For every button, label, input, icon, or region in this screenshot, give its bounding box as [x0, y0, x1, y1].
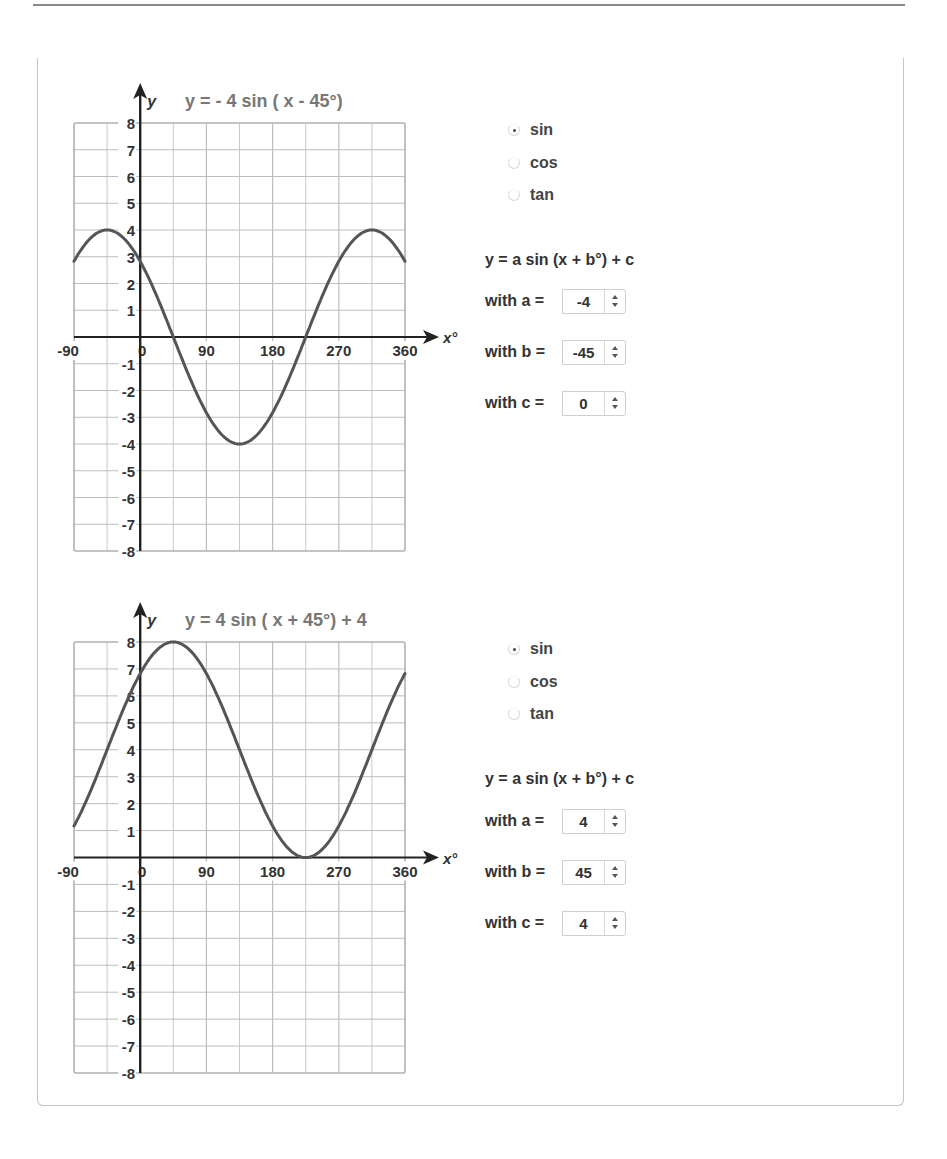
y-tick-label: 1	[127, 823, 135, 840]
sine-graph-1: 87654321-1-2-3-4-5-6-7-8-90090180270360x…	[0, 0, 947, 600]
x-tick-label: 90	[198, 342, 215, 359]
param-c-row: with c =	[485, 390, 626, 416]
x-tick-label: -90	[57, 342, 79, 359]
spin-down-icon[interactable]	[612, 354, 618, 358]
radio-label-cos: cos	[530, 154, 558, 172]
y-tick-label: -5	[122, 463, 135, 480]
param-b-label: with b =	[485, 343, 562, 361]
spinner-buttons	[605, 392, 625, 415]
param-c-input[interactable]	[563, 392, 605, 415]
spin-up-icon[interactable]	[612, 295, 618, 299]
y-tick-label: 2	[127, 276, 135, 293]
spinner-buttons	[605, 290, 625, 313]
param-c-input[interactable]	[563, 912, 605, 935]
param-a-spinner[interactable]	[562, 809, 626, 834]
param-b-spinner[interactable]	[562, 340, 626, 365]
y-axis-label: y	[146, 93, 157, 110]
radio-button-icon[interactable]	[508, 124, 520, 136]
spin-down-icon[interactable]	[612, 925, 618, 929]
spin-up-icon[interactable]	[612, 346, 618, 350]
y-tick-label: 5	[127, 195, 135, 212]
radio-cos[interactable]: cos	[508, 153, 558, 173]
y-tick-label: -6	[122, 490, 135, 507]
y-tick-label: -5	[122, 984, 135, 1001]
equation-title: y = 4 sin ( x + 45°) + 4	[185, 610, 367, 630]
x-tick-label: 180	[260, 863, 285, 880]
radio-label-tan: tan	[530, 705, 554, 723]
radio-label-cos: cos	[530, 673, 558, 691]
y-tick-label: 8	[127, 115, 135, 132]
x-axis-label: x°	[442, 850, 458, 867]
param-c-row: with c =	[485, 910, 626, 936]
param-a-label: with a =	[485, 812, 562, 830]
x-axis-label: x°	[442, 329, 458, 346]
param-a-row: with a =	[485, 288, 626, 314]
spinner-buttons	[605, 341, 625, 364]
spin-up-icon[interactable]	[612, 866, 618, 870]
y-tick-label: 4	[127, 742, 136, 759]
radio-button-icon[interactable]	[508, 189, 520, 201]
y-tick-label: -2	[122, 903, 135, 920]
param-c-label: with c =	[485, 914, 562, 932]
radio-label-sin: sin	[530, 121, 553, 139]
radio-cos[interactable]: cos	[508, 672, 558, 692]
param-a-label: with a =	[485, 292, 562, 310]
x-tick-label: 360	[392, 863, 417, 880]
spinner-buttons	[605, 810, 625, 833]
y-tick-label: 7	[127, 661, 135, 678]
spin-up-icon[interactable]	[612, 397, 618, 401]
spinner-buttons	[605, 861, 625, 884]
param-b-label: with b =	[485, 863, 562, 881]
y-tick-label: 5	[127, 715, 135, 732]
general-formula: y = a sin (x + b°) + c	[485, 770, 634, 788]
radio-button-icon[interactable]	[508, 643, 520, 655]
radio-button-icon[interactable]	[508, 708, 520, 720]
param-b-input[interactable]	[563, 341, 605, 364]
radio-button-icon[interactable]	[508, 676, 520, 688]
x-tick-label: 270	[326, 863, 351, 880]
param-a-input[interactable]	[563, 290, 605, 313]
spin-up-icon[interactable]	[612, 815, 618, 819]
param-a-input[interactable]	[563, 810, 605, 833]
param-a-row: with a =	[485, 808, 626, 834]
spin-down-icon[interactable]	[612, 823, 618, 827]
radio-tan[interactable]: tan	[508, 185, 554, 205]
radio-sin[interactable]: sin	[508, 639, 553, 659]
param-b-spinner[interactable]	[562, 860, 626, 885]
sine-graph-2: 87654321-1-2-3-4-5-6-7-8-90090180270360x…	[0, 519, 947, 1119]
param-b-row: with b =	[485, 859, 626, 885]
y-tick-label: 3	[127, 769, 135, 786]
x-tick-label: 180	[260, 342, 285, 359]
param-b-input[interactable]	[563, 861, 605, 884]
spin-up-icon[interactable]	[612, 917, 618, 921]
param-b-row: with b =	[485, 339, 626, 365]
param-c-spinner[interactable]	[562, 911, 626, 936]
x-tick-label: 90	[198, 863, 215, 880]
radio-label-sin: sin	[530, 640, 553, 658]
y-tick-label: -2	[122, 383, 135, 400]
spin-down-icon[interactable]	[612, 874, 618, 878]
spin-down-icon[interactable]	[612, 405, 618, 409]
y-tick-label: 7	[127, 142, 135, 159]
general-formula: y = a sin (x + b°) + c	[485, 251, 634, 269]
y-tick-label: -8	[122, 1065, 135, 1082]
y-tick-label: 1	[127, 302, 135, 319]
y-tick-label: 4	[127, 222, 136, 239]
radio-label-tan: tan	[530, 186, 554, 204]
equation-title: y = - 4 sin ( x - 45°)	[185, 91, 343, 111]
y-tick-label: 2	[127, 796, 135, 813]
spin-down-icon[interactable]	[612, 303, 618, 307]
y-tick-label: -4	[122, 436, 136, 453]
param-c-label: with c =	[485, 394, 562, 412]
param-a-spinner[interactable]	[562, 289, 626, 314]
radio-sin[interactable]: sin	[508, 120, 553, 140]
radio-tan[interactable]: tan	[508, 704, 554, 724]
y-axis-label: y	[146, 612, 157, 629]
y-tick-label: 6	[127, 169, 135, 186]
radio-button-icon[interactable]	[508, 157, 520, 169]
spinner-buttons	[605, 912, 625, 935]
param-c-spinner[interactable]	[562, 391, 626, 416]
y-tick-label: -7	[122, 1038, 135, 1055]
x-tick-label: 270	[326, 342, 351, 359]
x-tick-label: 360	[392, 342, 417, 359]
